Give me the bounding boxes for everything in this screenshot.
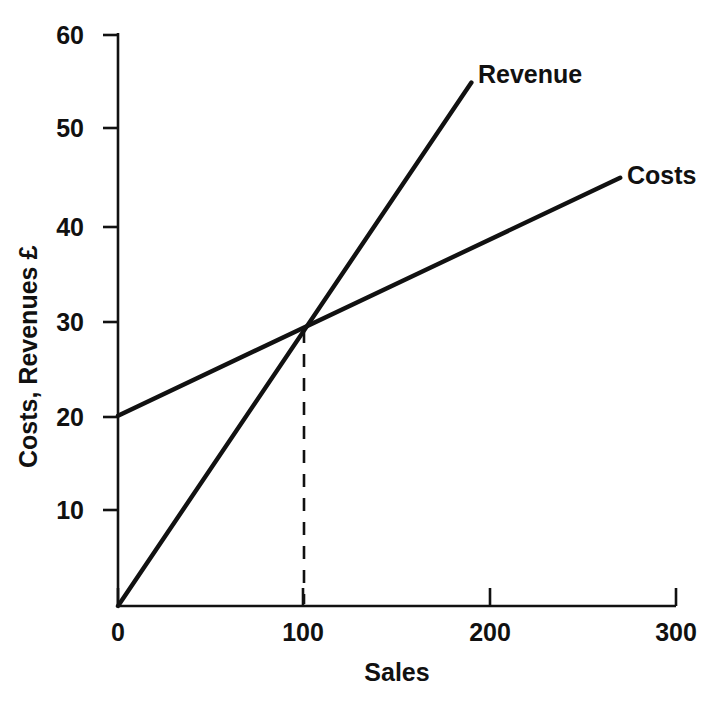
y-tick-marks [103,35,118,510]
y-tick-label-10: 10 [36,496,84,525]
plot-area [0,0,716,706]
y-tick-label-30: 30 [36,308,84,337]
y-tick-label-50: 50 [36,114,84,143]
x-tick-marks [118,588,676,606]
series-label-revenue: Revenue [478,60,582,89]
x-tick-label-0: 0 [111,618,125,647]
y-axis-title: Costs, Revenues £ [14,246,43,468]
series-label-costs: Costs [627,161,696,190]
series-line-costs [118,178,620,416]
x-axis-title: Sales [364,658,429,687]
break-even-chart: 60 50 40 30 20 10 0 100 200 300 Costs, R… [0,0,716,706]
y-tick-label-20: 20 [36,403,84,432]
x-tick-label-300: 300 [655,618,697,647]
y-tick-label-60: 60 [36,21,84,50]
series-line-revenue [118,83,471,606]
x-tick-label-200: 200 [469,618,511,647]
x-tick-label-100: 100 [282,618,324,647]
y-tick-label-40: 40 [36,213,84,242]
